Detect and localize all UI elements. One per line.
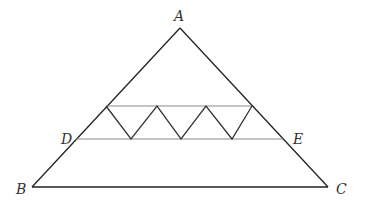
side-ac [180, 28, 328, 187]
point-label-d: D [60, 131, 72, 147]
vertex-label-b: B [15, 181, 26, 197]
triangle-diagram: A B C D E [0, 0, 365, 219]
point-label-e: E [292, 131, 303, 147]
zigzag-path [106, 106, 252, 139]
vertex-label-c: C [336, 181, 347, 197]
vertex-label-a: A [172, 8, 184, 24]
